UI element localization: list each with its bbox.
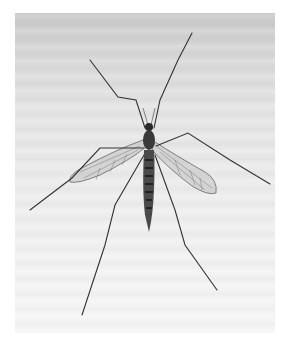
hind-left-leg xyxy=(82,155,144,315)
crane-fly-photo: Black-and-white photograph of a crane fl… xyxy=(15,13,275,333)
crane-fly-illustration xyxy=(15,13,275,333)
front-left-leg xyxy=(90,60,145,128)
body xyxy=(143,123,155,232)
front-right-leg xyxy=(154,33,192,128)
head xyxy=(145,123,153,131)
antennae xyxy=(143,108,155,125)
thorax xyxy=(143,130,155,150)
